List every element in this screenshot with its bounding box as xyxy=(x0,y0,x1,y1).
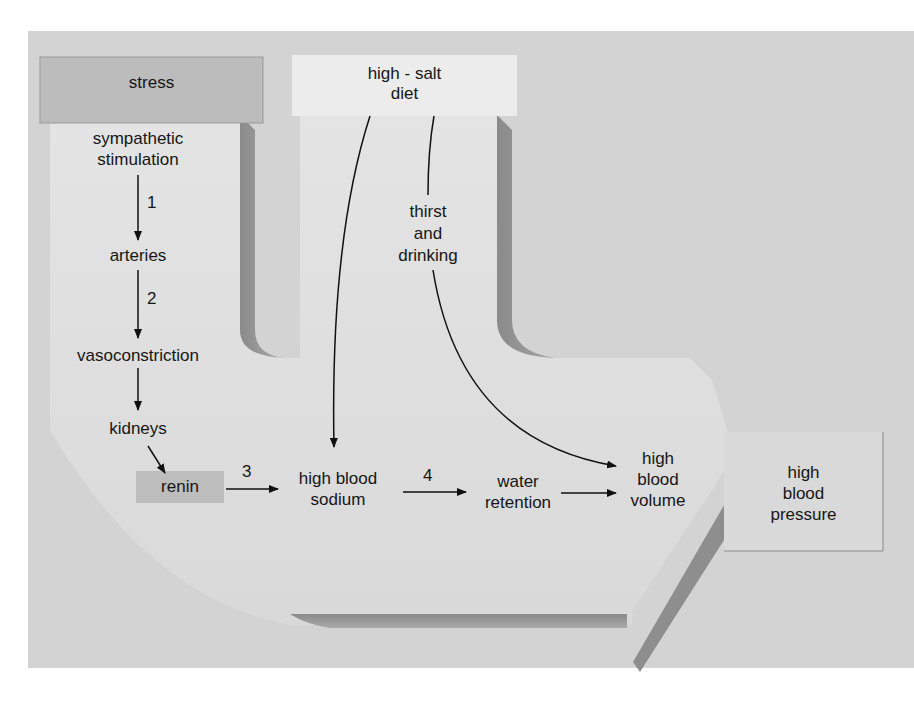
water-label-line2: retention xyxy=(468,493,568,513)
thirst-label-line2: and xyxy=(388,224,468,244)
salt-label-line2: diet xyxy=(292,84,517,104)
sympathetic-label-line2: stimulation xyxy=(48,150,228,170)
vasoconstriction-label: vasoconstriction xyxy=(48,346,228,366)
kidneys-label: kidneys xyxy=(48,419,228,439)
sodium-label-line1: high blood xyxy=(283,469,393,489)
step-2-label: 2 xyxy=(147,289,156,309)
volume-label-line3: volume xyxy=(618,491,698,511)
step-4-label: 4 xyxy=(423,466,432,486)
stress-label: stress xyxy=(40,73,263,93)
pressure-label-line3: pressure xyxy=(724,505,883,525)
sodium-label-line2: sodium xyxy=(283,490,393,510)
salt-label-line1: high - salt xyxy=(292,64,517,84)
diagram-canvas: stress high - salt diet sympathetic stim… xyxy=(0,0,914,716)
thirst-label-line1: thirst xyxy=(388,202,468,222)
pressure-label-line1: high xyxy=(724,463,883,483)
flow-arrow-bottom-shadow xyxy=(290,614,627,628)
arteries-label: arteries xyxy=(48,246,228,266)
volume-label-line1: high xyxy=(618,449,698,469)
thirst-label-line3: drinking xyxy=(388,246,468,266)
step-3-label: 3 xyxy=(242,462,251,482)
renin-label: renin xyxy=(136,477,224,497)
pressure-label-line2: blood xyxy=(724,484,883,504)
water-label-line1: water xyxy=(468,472,568,492)
volume-label-line2: blood xyxy=(618,470,698,490)
step-1-label: 1 xyxy=(147,193,156,213)
sympathetic-label-line1: sympathetic xyxy=(48,129,228,149)
